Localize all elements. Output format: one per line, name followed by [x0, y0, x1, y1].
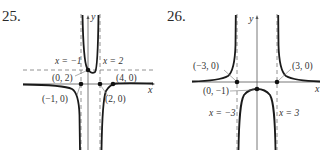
curve-right-branch — [278, 15, 320, 82]
point-neg1-0 — [79, 82, 84, 87]
figure-25: y x x = −1 x = 2 (0, 2) (4, 0) (−1, 0) (… — [23, 11, 155, 150]
x-axis-label: x — [147, 84, 153, 95]
label-point-2-0: (2, 0) — [105, 94, 126, 105]
label-point-4-0: (4, 0) — [116, 73, 137, 84]
y-axis-label: y — [90, 11, 96, 22]
label-point-3-0: (3, 0) — [292, 61, 313, 72]
leader-0-2 — [75, 71, 86, 76]
point-4-0 — [111, 82, 116, 87]
point-neg3-0 — [235, 80, 240, 85]
label-point-0-2: (0, 2) — [52, 73, 73, 84]
leader-neg1-0 — [77, 86, 80, 95]
y-axis-arrow-icon — [87, 15, 90, 19]
point-0-2 — [86, 68, 91, 73]
y-axis-label: y — [248, 13, 254, 24]
curve-left-branch — [192, 15, 236, 82]
label-point-0-neg1: (0, −1) — [203, 86, 229, 97]
curve-middle-branch — [83, 15, 99, 73]
label-asymptote-3: x = 3 — [278, 108, 299, 118]
label-point-neg3-0: (−3, 0) — [193, 61, 219, 72]
point-2-0 — [98, 82, 103, 87]
leader-neg3-0 — [224, 70, 235, 80]
figure-26: y x (−3, 0) (3, 0) (0, −1) x = −3 x = 3 — [192, 13, 320, 150]
point-0-neg1 — [255, 87, 260, 92]
label-point-neg1-0: (−1, 0) — [42, 94, 68, 105]
graphs-canvas: y x x = −1 x = 2 (0, 2) (4, 0) (−1, 0) (… — [0, 0, 320, 155]
label-asymptote-neg1: x = −1 — [54, 56, 82, 66]
label-asymptote-2: x = 2 — [102, 56, 123, 66]
y-axis-arrow-icon — [256, 15, 259, 19]
label-asymptote-neg3: x = −3 — [208, 108, 236, 118]
x-axis-label: x — [314, 83, 320, 94]
point-3-0 — [275, 80, 280, 85]
